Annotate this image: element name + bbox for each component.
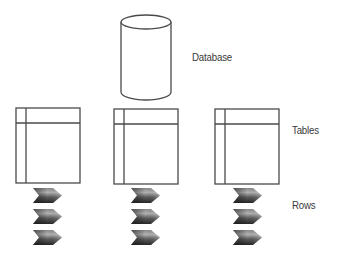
row-chevron-icon	[232, 187, 263, 204]
row-chevron-icon	[130, 187, 161, 204]
row-chevron-icon	[32, 187, 63, 204]
row-chevron-icon	[232, 229, 263, 246]
tables-label: Tables	[292, 124, 319, 136]
table-icon	[113, 108, 180, 186]
row-chevron-icon	[232, 208, 263, 225]
database-diagram: Database Tables	[0, 0, 338, 256]
table-icon	[15, 107, 82, 185]
rows-label: Rows	[292, 199, 316, 211]
row-chevron-icon	[32, 208, 63, 225]
table-icon	[214, 108, 281, 186]
database-label: Database	[192, 51, 232, 63]
row-chevron-icon	[130, 208, 161, 225]
row-chevron-icon	[32, 229, 63, 246]
database-cylinder-icon	[119, 12, 173, 104]
row-chevron-icon	[130, 229, 161, 246]
